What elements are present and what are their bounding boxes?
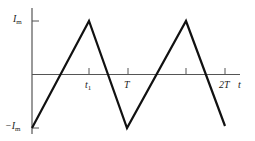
y-min-label-sub: m [15, 125, 20, 133]
x-tick-label-2T-main: 2T [219, 79, 230, 90]
x-tick-label-T: T [124, 80, 130, 90]
y-min-label-prefix: − [5, 120, 12, 131]
x-tick-label-2T: 2T [219, 80, 230, 90]
triangular-wave-diagram [0, 0, 255, 141]
y-max-label: Im [13, 14, 22, 24]
x-tick-label-T-main: T [124, 79, 130, 90]
y-max-label-sub: m [16, 18, 21, 26]
y-min-label: −Im [5, 121, 21, 131]
x-axis-label-text: t [238, 79, 241, 90]
x-axis-label: t [238, 80, 241, 90]
x-tick-label-t1-sub: 1 [88, 84, 92, 92]
x-tick-label-t1: t1 [85, 80, 91, 90]
